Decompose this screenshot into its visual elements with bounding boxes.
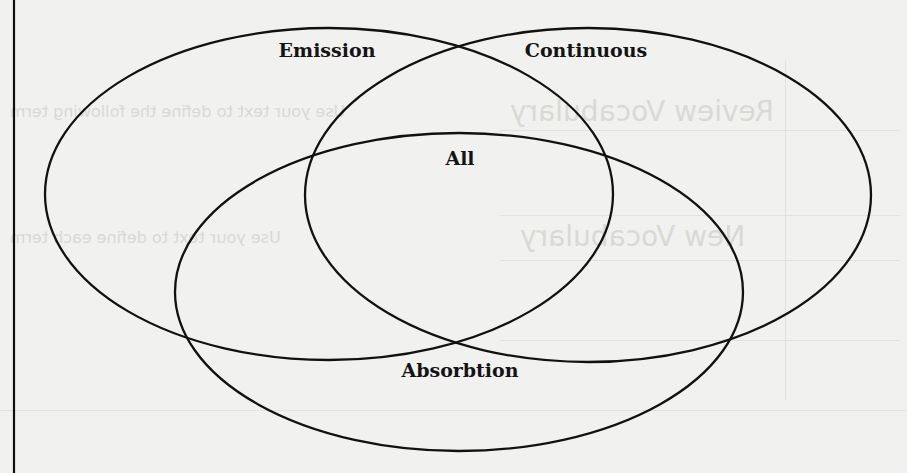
emission-ellipse — [45, 28, 613, 360]
all-intersection-label: All — [445, 147, 474, 169]
continuous-ellipse — [305, 28, 871, 362]
worksheet-page: Review Vocabulary Use your text to defin… — [0, 0, 907, 473]
absorbtion-label: Absorbtion — [401, 359, 518, 381]
absorbtion-ellipse — [175, 133, 743, 451]
continuous-label: Continuous — [525, 39, 647, 61]
emission-label: Emission — [279, 39, 376, 61]
venn-diagram — [0, 0, 907, 473]
